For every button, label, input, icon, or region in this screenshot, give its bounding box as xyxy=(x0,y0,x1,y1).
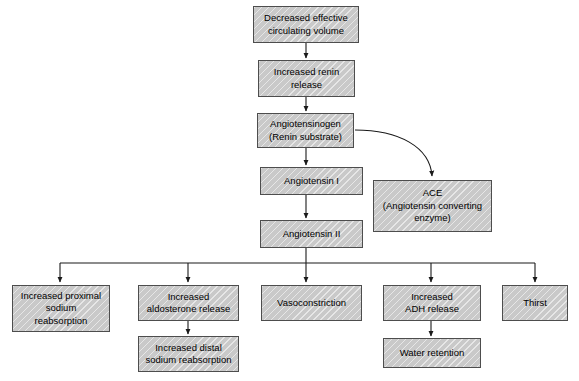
node-label: Vasoconstriction xyxy=(264,297,359,310)
node-angiotensin-i[interactable]: Angiotensin I xyxy=(260,167,363,195)
node-angiotensin-ii[interactable]: Angiotensin II xyxy=(260,220,363,248)
node-label: Decreased effective circulating volume xyxy=(256,12,356,37)
node-decreased-effective-circulating-volume[interactable]: Decreased effective circulating volume xyxy=(253,6,359,43)
node-label: Increased distal sodium reabsorption xyxy=(141,342,236,367)
node-label: Thirst xyxy=(505,297,565,310)
node-label: Angiotensinogen (Renin substrate) xyxy=(260,118,351,143)
flowchart-diagram: Decreased effective circulating volume I… xyxy=(0,0,579,381)
node-label: Angiotensin I xyxy=(263,175,360,188)
node-label: ACE (Angiotensin converting enzyme) xyxy=(376,187,489,225)
node-ace[interactable]: ACE (Angiotensin converting enzyme) xyxy=(373,180,492,232)
node-label: Increased aldosterone release xyxy=(141,291,236,316)
node-angiotensinogen[interactable]: Angiotensinogen (Renin substrate) xyxy=(257,113,354,148)
node-increased-distal-sodium-reabsorption[interactable]: Increased distal sodium reabsorption xyxy=(138,336,239,372)
node-increased-proximal-sodium-reabsorption[interactable]: Increased proximal sodium reabsorption xyxy=(12,285,110,332)
node-label: Increased proximal sodium reabsorption xyxy=(15,290,107,328)
node-increased-renin-release[interactable]: Increased renin release xyxy=(258,60,355,97)
arrow-angiotensinogen-to-ace xyxy=(355,130,432,176)
node-increased-adh-release[interactable]: Increased ADH release xyxy=(383,285,481,321)
node-label: Increased ADH release xyxy=(386,291,478,316)
node-label: Increased renin release xyxy=(261,66,352,91)
node-water-retention[interactable]: Water retention xyxy=(383,338,481,368)
node-vasoconstriction[interactable]: Vasoconstriction xyxy=(261,285,362,321)
node-thirst[interactable]: Thirst xyxy=(502,285,568,321)
node-increased-aldosterone-release[interactable]: Increased aldosterone release xyxy=(138,285,239,321)
node-label: Water retention xyxy=(386,347,478,360)
node-label: Angiotensin II xyxy=(263,228,360,241)
